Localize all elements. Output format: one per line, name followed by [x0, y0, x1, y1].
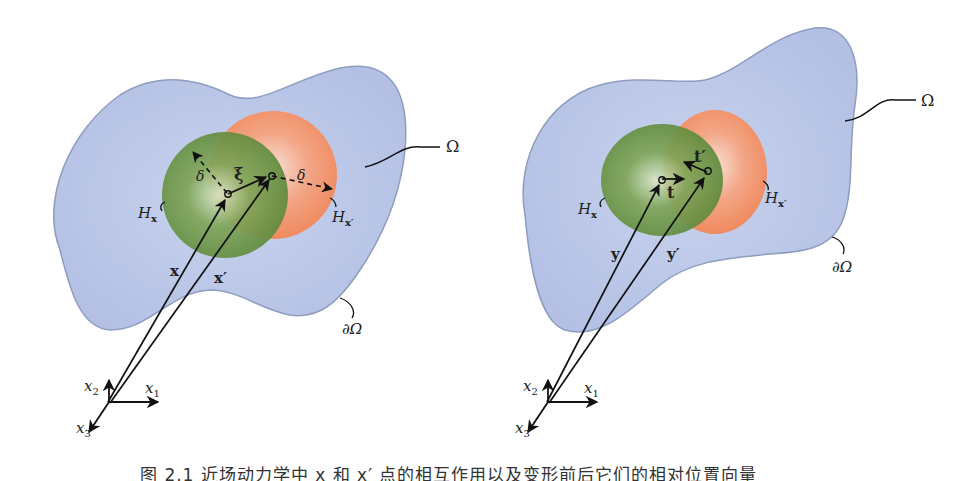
axis-x1-label-left: x1 [145, 379, 160, 399]
force-tp-label: t′ [694, 147, 706, 166]
omega-label-right: Ω [921, 91, 934, 110]
left-panel: Ω ∂Ω Hx Hx′ ξ δ δ x x′ x2 x1 x3 [54, 66, 460, 439]
vector-yp-label: y′ [666, 245, 680, 263]
boundary-label-right: ∂Ω [832, 258, 852, 276]
bond-xi-label: ξ [234, 165, 243, 184]
axis-x2-label-right: x2 [523, 377, 538, 397]
delta-label-left: δ [196, 168, 204, 184]
figure-caption: 图 2.1 近场动力学中 x 和 x′ 点的相互作用以及变形前后它们的相对位置向… [140, 461, 840, 481]
omega-label-left: Ω [446, 137, 459, 156]
horizon-green-right [601, 124, 723, 236]
vector-x-label: x [170, 262, 180, 280]
boundary-leader-right [832, 237, 844, 254]
boundary-leader-left [340, 298, 354, 318]
force-t-label: t [667, 183, 675, 202]
right-panel: Ω ∂Ω Hx Hx′ t t′ y y′ x2 x1 x3 [515, 28, 934, 439]
boundary-label-left: ∂Ω [342, 320, 362, 338]
axis-x3-label-right: x3 [515, 419, 530, 439]
axis-x3-left [89, 402, 109, 432]
axis-x3-label-left: x3 [76, 419, 91, 439]
vector-y-label: y [610, 245, 621, 263]
axis-x2-label-left: x2 [84, 377, 99, 397]
axis-x1-label-right: x1 [584, 379, 599, 399]
delta-label-right: δ [297, 167, 305, 183]
vector-xp-label: x′ [214, 269, 227, 287]
axis-x3-right [528, 402, 548, 432]
